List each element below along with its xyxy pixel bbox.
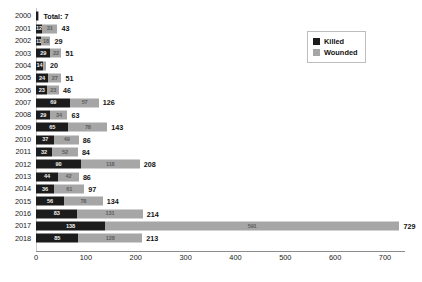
stacked-bar: 5678134 (36, 197, 119, 206)
bar-total-label: 20 (50, 62, 58, 69)
x-tick-label: 600 (329, 254, 341, 261)
bar-row: 20155678134 (0, 195, 422, 207)
bar-segment-killed: 23 (36, 86, 47, 95)
segment-value-wounded: 27 (52, 75, 58, 81)
total-annotation: Total: 7 (43, 13, 68, 20)
bar-total-label: 213 (146, 235, 158, 242)
bar-segment-wounded: 23 (47, 86, 58, 95)
segment-value-killed: 29 (40, 50, 46, 56)
bar-row: 20076957126 (0, 96, 422, 108)
segment-value-killed: 65 (49, 124, 55, 130)
year-label: 2007 (0, 99, 31, 106)
bar-segment-killed: 29 (36, 49, 50, 58)
segment-value-wounded: 78 (85, 124, 91, 130)
bar-row: 2013444286 (0, 170, 422, 182)
year-label: 2018 (0, 235, 31, 242)
bar-total-label: 51 (65, 50, 73, 57)
segment-value-killed: 69 (50, 100, 56, 106)
bar-row: 201683131214 (0, 208, 422, 220)
bar-total-label: 126 (103, 99, 115, 106)
year-label: 2017 (0, 222, 31, 229)
bar-segment-wounded: 591 (105, 222, 400, 231)
x-tick-label: 100 (80, 254, 92, 261)
stacked-bar: 444286 (36, 172, 91, 181)
bar-total-label: 143 (111, 124, 123, 131)
bar-segment-wounded (43, 61, 46, 70)
legend-item-killed: Killed (313, 36, 358, 47)
x-axis-line (36, 251, 405, 252)
bar-row: 2000Total: 7 (0, 10, 422, 22)
year-label: 2010 (0, 136, 31, 143)
year-label: 2002 (0, 37, 31, 44)
bar-segment-killed: 83 (36, 209, 77, 218)
segment-value-wounded: 22 (53, 50, 59, 56)
segment-value-wounded: 34 (56, 112, 62, 118)
year-label: 2005 (0, 74, 31, 81)
x-tick-label: 200 (130, 254, 142, 261)
year-label: 2008 (0, 111, 31, 118)
stacked-bar: 83131214 (36, 209, 159, 218)
bar-segment-killed: 65 (36, 123, 68, 132)
year-label: 2012 (0, 161, 31, 168)
stacked-bar-chart: 2000Total: 72001123143200211182920032922… (0, 0, 422, 282)
segment-value-killed: 90 (55, 162, 61, 168)
year-label: 2004 (0, 62, 31, 69)
bar-segment-wounded: 78 (68, 123, 107, 132)
bar-segment-wounded: 22 (50, 49, 61, 58)
stacked-bar: 325284 (36, 147, 90, 156)
bar-row: 2005242751 (0, 72, 422, 84)
bar-total-label: 134 (107, 198, 119, 205)
year-label: 2003 (0, 50, 31, 57)
stacked-bar: 123143 (36, 24, 69, 33)
bar-segment-wounded: 118 (81, 160, 140, 169)
bar-segment-wounded: 61 (54, 184, 84, 193)
bar-segment-wounded: 34 (50, 110, 67, 119)
year-label: 2013 (0, 173, 31, 180)
segment-value-wounded: 42 (65, 174, 71, 180)
segment-value-wounded: 591 (248, 223, 257, 229)
segment-value-killed: 23 (39, 87, 45, 93)
stacked-bar: 232346 (36, 86, 71, 95)
bar-total-label: 214 (147, 210, 159, 217)
legend-item-wounded: Wounded (313, 47, 358, 58)
segment-value-wounded: 31 (47, 26, 53, 32)
segment-value-killed: 24 (39, 75, 45, 81)
bar-segment-wounded: 52 (52, 147, 78, 156)
bar-total-label: 46 (63, 87, 71, 94)
segment-value-wounded: 61 (66, 186, 72, 192)
bar-total-label: 97 (88, 185, 96, 192)
bar-total-label: 86 (83, 173, 91, 180)
bar-row: 2014366197 (0, 183, 422, 195)
bar-segment-killed: 90 (36, 160, 81, 169)
stacked-bar: 293463 (36, 110, 79, 119)
stacked-bar: 366197 (36, 184, 96, 193)
legend-swatch-wounded (313, 49, 320, 56)
chart-legend: Killed Wounded (307, 31, 366, 63)
segment-value-wounded: 49 (64, 137, 70, 143)
segment-value-killed: 29 (40, 112, 46, 118)
segment-value-wounded: 128 (106, 236, 115, 242)
x-tick-label: 500 (279, 254, 291, 261)
bar-segment-killed: 29 (36, 110, 50, 119)
bar-total-label: 63 (71, 111, 79, 118)
segment-value-killed: 44 (44, 174, 50, 180)
stacked-bar: 242751 (36, 73, 73, 82)
segment-value-killed: 83 (54, 211, 60, 217)
year-label: 2009 (0, 124, 31, 131)
x-tick-label: 700 (379, 254, 391, 261)
segment-value-wounded: 23 (50, 87, 56, 93)
segment-value-wounded: 57 (82, 100, 88, 106)
segment-value-wounded: 78 (80, 199, 86, 205)
stacked-bar: 90118208 (36, 160, 156, 169)
segment-value-killed: 36 (42, 186, 48, 192)
segment-value-wounded: 18 (43, 38, 49, 44)
bar-segment-wounded: 27 (48, 73, 61, 82)
x-tick-label: 400 (229, 254, 241, 261)
bar-segment-wounded: 57 (70, 98, 98, 107)
segment-value-killed: 85 (54, 236, 60, 242)
stacked-bar: 111829 (36, 36, 62, 45)
segment-value-wounded: 131 (106, 211, 115, 217)
stacked-bar: 85128213 (36, 234, 158, 243)
year-label: 2014 (0, 185, 31, 192)
bar-segment-wounded: 42 (58, 172, 79, 181)
